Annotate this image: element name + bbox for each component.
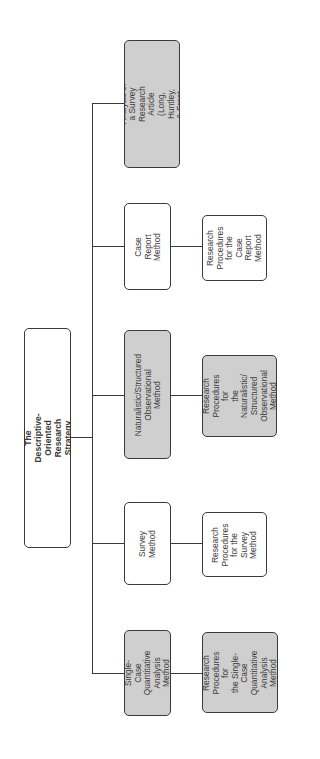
branch-abbreviated [92, 103, 124, 104]
root-node: The Descriptive-Oriented Research Strate… [24, 328, 71, 548]
node-label: Research Procedures for the Naturalistic… [202, 370, 277, 422]
node-single-case-procedures: Research Procedures for the Single-Case … [202, 632, 278, 713]
branch-naturalistic [92, 395, 124, 396]
node-naturalistic-method: Naturalistic/Structured Observational Me… [124, 330, 171, 459]
proc-connector-survey [171, 543, 202, 544]
node-label: Case Report Method [133, 233, 162, 261]
proc-connector-single-case [171, 673, 202, 674]
node-survey-procedures: Research Procedures for the Survey Metho… [202, 512, 267, 577]
node-naturalistic-procedures: Research Procedures for the Naturalistic… [202, 355, 277, 437]
node-label: Research Procedures for the Survey Metho… [211, 523, 259, 566]
root-label: The Descriptive-Oriented Research Strate… [24, 413, 71, 462]
node-label: Abbreviated Analysis of a Survey Researc… [124, 82, 180, 127]
proc-connector-case-report [171, 246, 202, 247]
node-case-report-procedures: Research Procedures for the Case Report … [202, 215, 267, 281]
branch-single-case [92, 673, 124, 674]
node-label: Naturalistic/Structured Observational Me… [133, 353, 162, 435]
root-connector [71, 437, 92, 438]
node-label: Survey Method [138, 530, 157, 558]
branch-case-report [92, 246, 124, 247]
node-abbreviated-analysis: Abbreviated Analysis of a Survey Researc… [124, 40, 180, 168]
node-survey-method: Survey Method [124, 502, 171, 585]
proc-connector-naturalistic [171, 395, 202, 396]
trunk-line [92, 103, 93, 674]
branch-survey [92, 543, 124, 544]
node-case-report-method: Case Report Method [124, 203, 171, 290]
node-label: Research Procedures for the Single-Case … [202, 650, 278, 695]
node-single-case-method: Single-Case Quantitative Analysis Method [124, 630, 171, 716]
node-label: Single-Case Quantitative Analysis Method [124, 651, 171, 696]
node-label: Research Procedures for the Case Report … [206, 227, 264, 270]
